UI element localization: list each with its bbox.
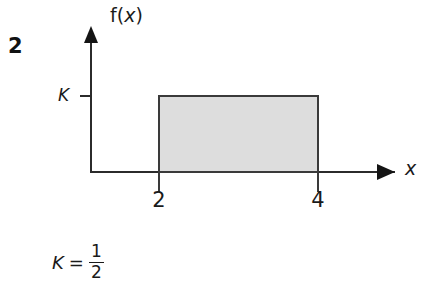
- y-axis-tick-k: [80, 95, 91, 97]
- y-axis-line: [90, 40, 92, 173]
- y-axis-label: f(x): [110, 6, 143, 25]
- y-axis-arrowhead-icon: [84, 26, 98, 43]
- k-value-denominator: 2: [89, 263, 104, 282]
- y-axis-label-function: f: [110, 4, 117, 26]
- k-value-fraction: 1 2: [89, 243, 104, 282]
- y-axis-label-open-paren: (: [117, 4, 124, 26]
- x-axis-tick-label-lower: 2: [139, 190, 179, 211]
- k-value-symbol: K: [52, 254, 64, 272]
- probability-density-figure: 2 f(x) x K 2 4 K = 1 2: [0, 0, 425, 288]
- x-axis-tick-label-upper: 4: [298, 190, 338, 211]
- k-value-caption: K = 1 2: [52, 243, 104, 282]
- y-axis-label-close-paren: ): [135, 4, 142, 26]
- k-value-numerator: 1: [89, 243, 104, 262]
- uniform-density-rectangle: [158, 95, 319, 173]
- problem-number: 2: [8, 36, 23, 57]
- y-axis-tick-label-k: K: [58, 87, 69, 104]
- x-axis-label: x: [405, 159, 416, 178]
- y-axis-label-variable: x: [124, 4, 135, 26]
- k-value-equals-sign: =: [69, 254, 84, 272]
- x-axis-arrowhead-icon: [377, 164, 395, 180]
